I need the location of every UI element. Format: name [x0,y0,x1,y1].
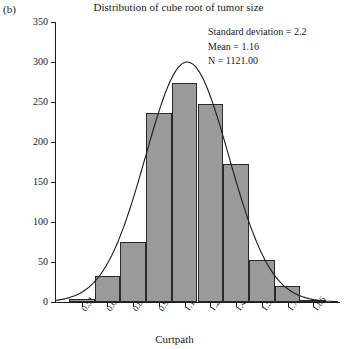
y-tick-label: 350 [8,17,48,27]
x-axis-label: Curtpath [0,333,349,345]
y-tick-label: 300 [8,57,48,67]
stat-standard-deviation: Standard deviation = 2.2 [208,25,306,40]
y-tick-mark [51,22,55,23]
panel-label: (b) [3,3,16,15]
y-tick-label: 200 [8,137,48,147]
y-tick-label: 50 [8,257,48,267]
chart-figure: (b) Distribution of cube root of tumor s… [0,0,349,349]
y-tick-label: 150 [8,177,48,187]
y-tick-mark [51,62,55,63]
y-tick-mark [51,142,55,143]
y-tick-label: 0 [8,297,48,307]
y-tick-mark [51,302,55,303]
y-tick-mark [51,262,55,263]
y-tick-mark [51,222,55,223]
stat-mean: Mean = 1.16 [208,40,306,55]
chart-title: Distribution of cube root of tumor size [66,1,291,14]
y-tick-label: 100 [8,217,48,227]
y-tick-mark [51,182,55,183]
y-tick-label: 250 [8,97,48,107]
stat-n: N = 1121.00 [208,54,306,69]
y-tick-mark [51,102,55,103]
stats-annotation: Standard deviation = 2.2 Mean = 1.16 N =… [208,25,306,69]
